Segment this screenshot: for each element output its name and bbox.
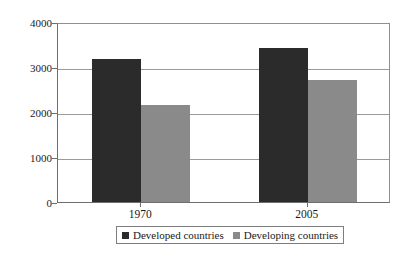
x-axis-tick-label: 2005	[295, 208, 318, 220]
bar-chart-figure: 40003000200010000 19702005 Developed cou…	[0, 0, 415, 257]
legend-swatch-icon	[233, 232, 240, 239]
y-axis-tick-label: 2000	[0, 107, 52, 119]
y-axis-tick-label: 4000	[0, 17, 52, 29]
x-axis-tick-label: 1970	[129, 208, 152, 220]
chart-legend: Developed countriesDeveloping countries	[116, 226, 344, 244]
bar-2005-developing	[308, 80, 357, 202]
legend-item-label: Developed countries	[133, 230, 224, 241]
legend-item-label: Developing countries	[244, 230, 338, 241]
x-axis-tickmark	[140, 203, 141, 207]
x-axis-tickmark	[307, 203, 308, 207]
y-axis-tick-label: 3000	[0, 62, 52, 74]
y-axis-tickmark	[52, 203, 57, 204]
y-axis-tick-label: 1000	[0, 152, 52, 164]
y-axis-tick-label: 0	[0, 197, 52, 209]
plot-area	[57, 23, 390, 203]
bar-1970-developed	[92, 59, 141, 202]
bar-2005-developed	[259, 48, 308, 202]
legend-item: Developed countries	[122, 230, 224, 241]
bar-1970-developing	[141, 105, 190, 202]
legend-swatch-icon	[122, 232, 129, 239]
legend-item: Developing countries	[233, 230, 338, 241]
